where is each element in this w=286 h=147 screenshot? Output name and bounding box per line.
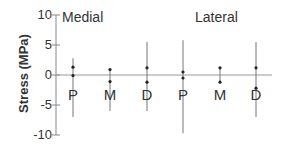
upper-point-marker <box>181 70 184 73</box>
upper-point-marker <box>218 66 221 69</box>
category-label-lateral-m: M <box>212 86 228 103</box>
group-title-medial: Medial <box>62 9 103 25</box>
upper-point-marker <box>254 66 257 69</box>
category-label-medial-d: D <box>139 86 155 103</box>
upper-point-marker <box>108 68 111 71</box>
stress-chart: Stress (MPa) 10 5 0 -5 -10 Medial Latera… <box>0 0 286 147</box>
lower-point-marker <box>218 81 221 84</box>
y-tick-10: 10 <box>28 7 52 22</box>
category-label-medial-p: P <box>65 86 81 103</box>
lower-point-marker <box>181 76 184 79</box>
upper-point-marker <box>145 66 148 69</box>
y-tick-neg5: -5 <box>28 97 52 112</box>
group-title-lateral: Lateral <box>195 9 238 25</box>
lower-point-marker <box>71 74 74 77</box>
y-tick-neg10: -10 <box>28 127 52 142</box>
y-tick-5: 5 <box>28 37 52 52</box>
category-label-lateral-p: P <box>175 86 191 103</box>
category-label-medial-m: M <box>102 86 118 103</box>
y-tick-0: 0 <box>28 67 52 82</box>
lower-point-marker <box>108 80 111 83</box>
lower-point-marker <box>145 81 148 84</box>
upper-point-marker <box>71 66 74 69</box>
category-label-lateral-d: D <box>248 86 264 103</box>
